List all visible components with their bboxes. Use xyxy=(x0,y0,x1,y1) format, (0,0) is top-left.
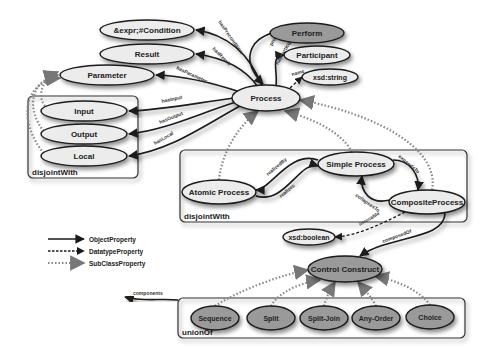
node-label: Simple Process xyxy=(326,160,386,169)
node-split[interactable]: Split xyxy=(247,306,295,330)
edge-label: realizedBy xyxy=(265,156,288,177)
edge-components: components xyxy=(125,290,178,300)
legend-label: DatatypeProperty xyxy=(89,248,144,256)
node-label: &expr;#Condition xyxy=(113,26,180,35)
node-label: Result xyxy=(135,50,160,59)
node-local[interactable]: Local xyxy=(41,146,127,166)
node-label: Atomic Process xyxy=(189,188,250,197)
node-sequence[interactable]: Sequence xyxy=(191,306,239,330)
group-label: disjointWith xyxy=(32,168,78,177)
node-participant[interactable]: Participant xyxy=(284,46,350,64)
node-label: Local xyxy=(74,152,95,161)
legend-datatype: DatatypeProperty xyxy=(48,248,144,256)
node-label: Participant xyxy=(296,51,338,60)
node-any_order[interactable]: Any-Order xyxy=(352,306,400,330)
node-label: Perform xyxy=(292,29,323,38)
legend-label: ObjectProperty xyxy=(89,236,136,244)
edge-label: hasResult xyxy=(211,45,232,66)
node-output[interactable]: Output xyxy=(41,124,127,144)
subclass-edge xyxy=(271,280,320,306)
node-label: Split xyxy=(263,315,279,323)
legend-object: ObjectProperty xyxy=(48,236,136,244)
subclass-edge xyxy=(324,282,335,306)
node-xsd_string[interactable]: xsd:string xyxy=(302,69,358,85)
node-label: Parameter xyxy=(87,71,126,80)
subclass-edge xyxy=(358,282,376,306)
subclass-edge xyxy=(219,111,258,180)
node-control_construct[interactable]: Control Construct xyxy=(308,256,382,282)
node-result[interactable]: Result xyxy=(100,44,194,64)
edge-hasPrecondition: hasPrecondition xyxy=(196,19,262,86)
edge-label: expandsTo xyxy=(397,153,421,174)
edge-hasParameter: hasParameter xyxy=(156,64,240,92)
node-label: Control Construct xyxy=(311,265,380,274)
edge-label: hasParameter xyxy=(176,64,209,83)
node-label: Process xyxy=(250,94,282,103)
legend-label: SubClassProperty xyxy=(89,260,146,268)
node-label: Input xyxy=(74,107,94,116)
legend: ObjectPropertyDatatypePropertySubClassPr… xyxy=(48,236,146,268)
node-input[interactable]: Input xyxy=(41,101,127,121)
node-xsd_boolean[interactable]: xsd:boolean xyxy=(283,229,335,245)
subclass-edge xyxy=(300,100,433,190)
node-choice[interactable]: Choice xyxy=(406,305,454,329)
node-split_join[interactable]: Split-Join xyxy=(300,306,348,330)
node-label: Sequence xyxy=(198,315,231,323)
edge-label: invocable xyxy=(358,210,381,227)
node-label: Output xyxy=(71,130,98,139)
edge-expandsTo: expandsTo xyxy=(393,153,421,190)
node-label: xsd:boolean xyxy=(288,234,329,241)
node-perform[interactable]: Perform xyxy=(270,23,344,43)
node-simple_process[interactable]: Simple Process xyxy=(318,152,394,176)
edge-label: components xyxy=(133,290,163,296)
node-condition[interactable]: &expr;#Condition xyxy=(100,20,194,40)
group-label: disjointWith xyxy=(184,212,230,221)
edge-label: hasOutput xyxy=(158,110,184,125)
node-label: CompositeProcess xyxy=(391,198,464,207)
node-label: Choice xyxy=(418,314,441,321)
subclass-edge xyxy=(375,276,430,305)
node-parameter[interactable]: Parameter xyxy=(60,65,154,85)
owl-s-diagram: disjointWithdisjointWithunionOf hasPreco… xyxy=(0,0,495,357)
subclass-edge xyxy=(215,270,308,306)
node-label: Split-Join xyxy=(308,315,340,323)
node-composite_process[interactable]: CompositeProcess xyxy=(389,190,465,214)
edge-collapsesTo: collapsesTo xyxy=(354,176,390,213)
subclass-edge xyxy=(285,111,352,152)
node-process[interactable]: Process xyxy=(232,85,300,111)
edge-label: hasInput xyxy=(161,94,183,104)
node-label: Any-Order xyxy=(359,315,394,323)
node-atomic_process[interactable]: Atomic Process xyxy=(182,180,256,204)
edge-realizes: realizes xyxy=(256,165,318,198)
legend-subclass: SubClassProperty xyxy=(48,260,146,268)
node-label: xsd:string xyxy=(313,74,347,82)
